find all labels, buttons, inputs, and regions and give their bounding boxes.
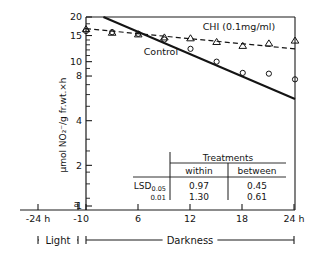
y-tick-label-20: 20 xyxy=(70,11,82,22)
data-point-chi-21h xyxy=(265,40,273,46)
y-tick-label-4: 4 xyxy=(76,115,82,126)
x-axis-tick-labels: -24 h-106121824 h xyxy=(26,213,305,224)
series-annotations: ControlCHI (0.1mg/ml) xyxy=(144,21,275,57)
lsd-inset-table: Treatments within between LSD0.05 0.97 0… xyxy=(133,152,286,202)
inset-row-label-lsd: LSD0.05 xyxy=(134,181,166,193)
y-axis-tick-labels: 2015108421 xyxy=(70,11,82,211)
x-tick-label-24: 24 h xyxy=(283,213,304,224)
x-tick-label--24: -24 h xyxy=(26,213,51,224)
inset-header-treatments: Treatments xyxy=(202,153,254,163)
inset-cell-between-001: 0.61 xyxy=(247,192,267,202)
data-point-control-15h xyxy=(214,59,219,64)
series-label-control: Control xyxy=(144,46,178,57)
inset-cell-within-001: 1.30 xyxy=(189,192,209,202)
phase-label-darkness: Darkness xyxy=(167,235,214,246)
nitrite-reductase-activity-chart: μmol NO₂⁻/g fr.wt.×h 2015108421 -24 h-10… xyxy=(0,0,316,256)
inset-column-within: within xyxy=(185,166,212,176)
y-tick-label-8: 8 xyxy=(76,70,82,81)
inset-row-label-001: 0.01 xyxy=(150,194,166,202)
data-point-control-21h xyxy=(266,71,271,76)
y-tick-label-2: 2 xyxy=(76,160,82,171)
chart-figure: μmol NO₂⁻/g fr.wt.×h 2015108421 -24 h-10… xyxy=(0,0,316,256)
x-tick-label-12: 12 xyxy=(184,213,196,224)
photoperiod-bars: LightDarkness xyxy=(38,235,294,246)
origin-break-marker: a xyxy=(74,199,79,209)
x-tick-label-18: 18 xyxy=(236,213,248,224)
inset-cell-between-005: 0.45 xyxy=(247,181,267,191)
series-label-chi: CHI (0.1mg/ml) xyxy=(203,21,275,32)
y-tick-label-10: 10 xyxy=(70,56,82,67)
y-tick-label-15: 15 xyxy=(70,30,82,41)
inset-column-between: between xyxy=(238,166,277,176)
x-tick-label-0: 0 xyxy=(83,213,89,224)
x-tick-label-6: 6 xyxy=(135,213,141,224)
data-point-chi-18h xyxy=(239,42,247,48)
data-point-control-12h xyxy=(188,46,193,51)
x-tick-label--1: -1 xyxy=(73,213,82,224)
data-point-chi-12h xyxy=(187,35,195,41)
y-axis-label: μmol NO₂⁻/g fr.wt.×h xyxy=(58,77,68,172)
inset-cell-within-005: 0.97 xyxy=(189,181,209,191)
y-axis-tick-marks xyxy=(86,17,92,206)
data-point-control-18h xyxy=(240,70,245,75)
phase-label-light: Light xyxy=(46,235,71,246)
